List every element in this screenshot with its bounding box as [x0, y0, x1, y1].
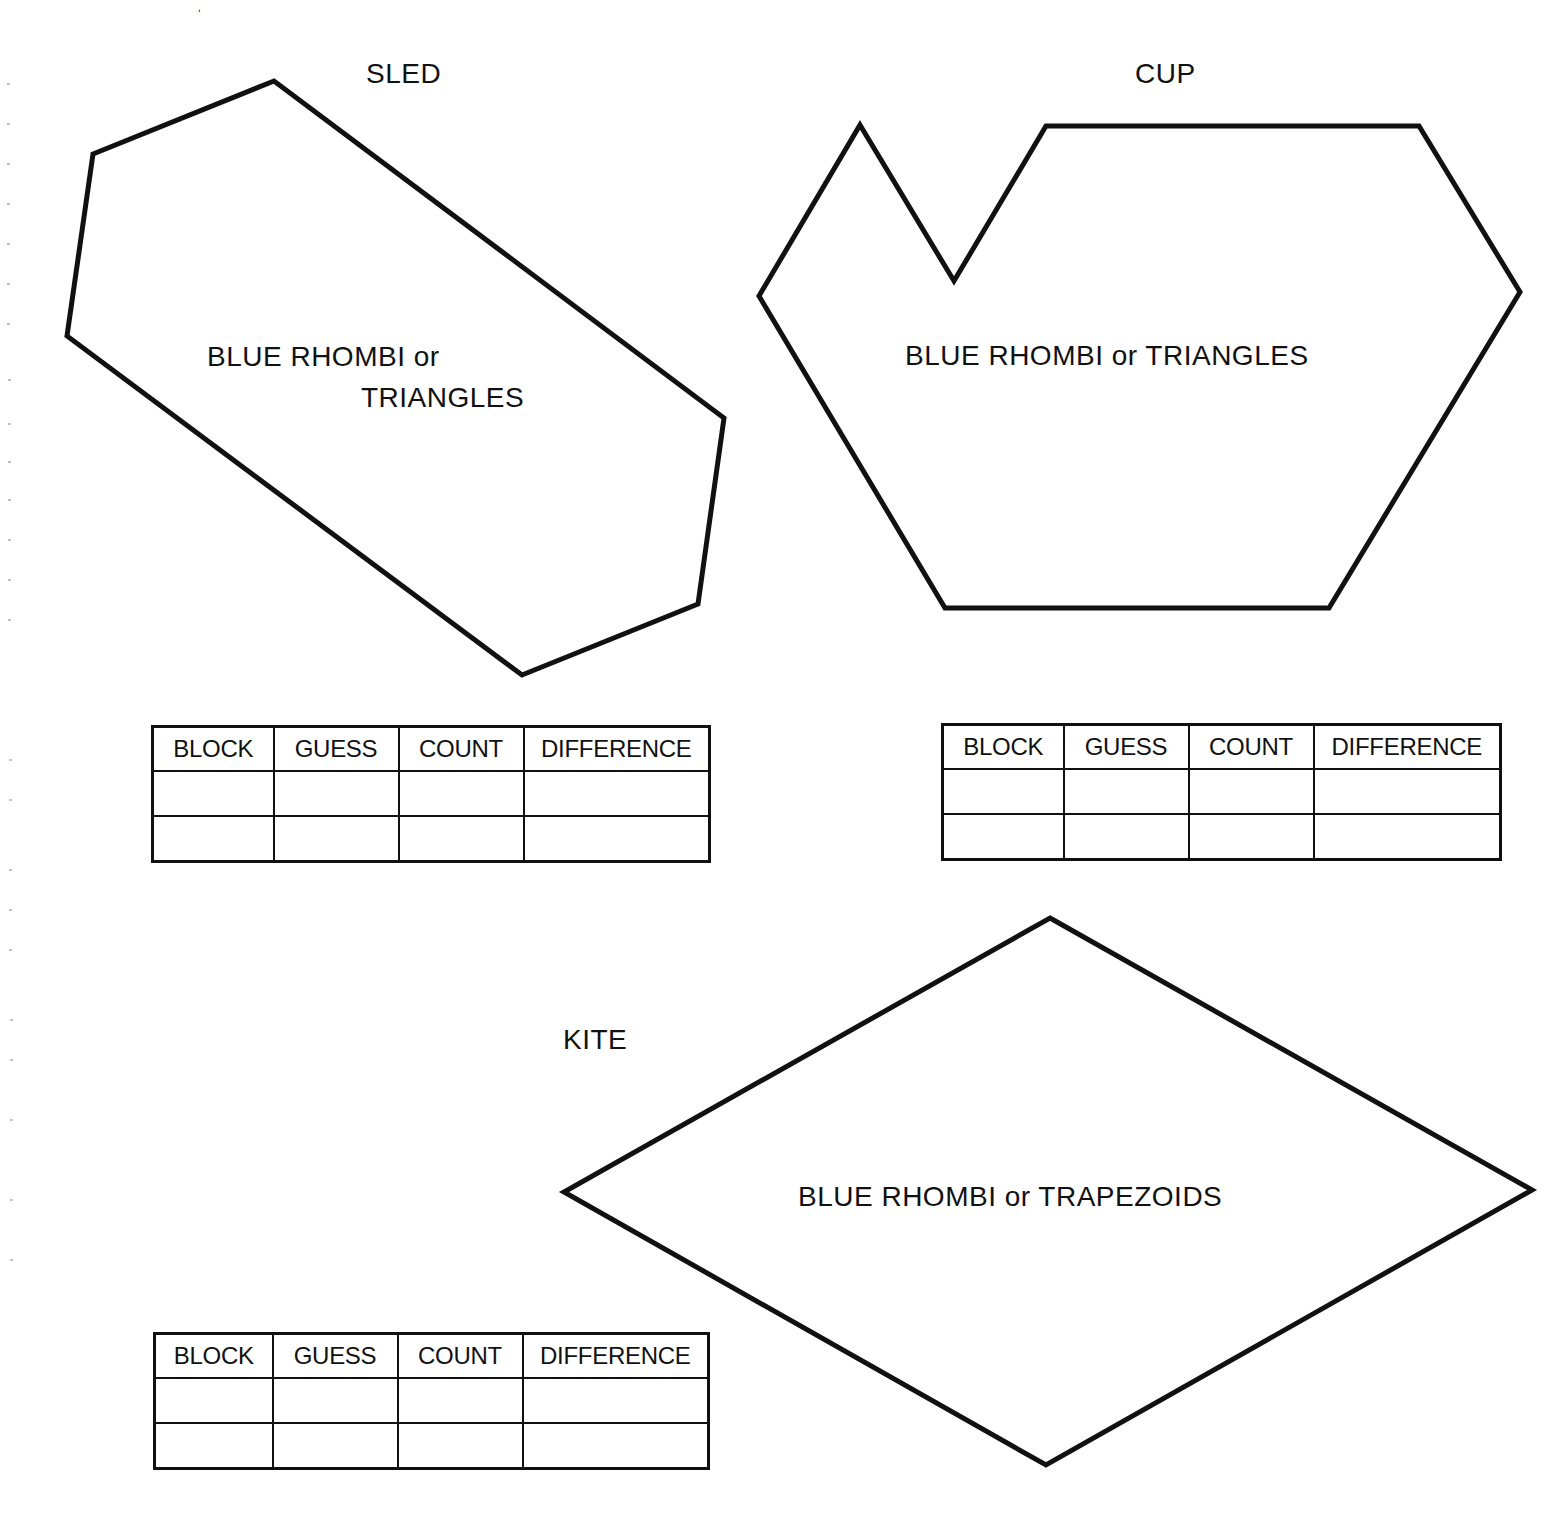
difference-cell[interactable]	[1314, 814, 1501, 860]
sled-title: SLED	[366, 60, 441, 88]
count-cell[interactable]	[398, 1423, 523, 1469]
guess-cell[interactable]	[1064, 769, 1189, 814]
table-header-row: BLOCK GUESS COUNT DIFFERENCE	[943, 725, 1501, 770]
sled-fill-instruction-line2: TRIANGLES	[207, 378, 524, 419]
column-header-difference: DIFFERENCE	[524, 727, 710, 772]
count-cell[interactable]	[398, 1378, 523, 1423]
guess-cell[interactable]	[274, 771, 399, 816]
difference-cell[interactable]	[523, 1378, 709, 1423]
column-header-guess: GUESS	[273, 1334, 398, 1379]
guess-cell[interactable]	[1064, 814, 1189, 860]
column-header-guess: GUESS	[274, 727, 399, 772]
count-cell[interactable]	[1189, 769, 1314, 814]
kite-title: KITE	[563, 1026, 627, 1054]
block-cell[interactable]	[153, 816, 274, 862]
column-header-count: COUNT	[398, 1334, 523, 1379]
column-header-guess: GUESS	[1064, 725, 1189, 770]
column-header-block: BLOCK	[153, 727, 274, 772]
column-header-block: BLOCK	[155, 1334, 273, 1379]
difference-cell[interactable]	[523, 1423, 709, 1469]
table-row	[153, 771, 710, 816]
difference-cell[interactable]	[1314, 769, 1501, 814]
table-row	[155, 1423, 709, 1469]
cup-fill-instruction: BLUE RHOMBI or TRIANGLES	[905, 336, 1309, 377]
count-cell[interactable]	[399, 771, 524, 816]
column-header-block: BLOCK	[943, 725, 1064, 770]
cup-title: CUP	[1135, 60, 1196, 88]
table-header-row: BLOCK GUESS COUNT DIFFERENCE	[153, 727, 710, 772]
kite-fill-instruction: BLUE RHOMBI or TRAPEZOIDS	[798, 1177, 1222, 1218]
difference-cell[interactable]	[524, 771, 710, 816]
block-cell[interactable]	[943, 769, 1064, 814]
column-header-count: COUNT	[399, 727, 524, 772]
sled-fill-instruction-line1: BLUE RHOMBI or	[207, 337, 524, 378]
column-header-difference: DIFFERENCE	[523, 1334, 709, 1379]
guess-cell[interactable]	[274, 816, 399, 862]
guess-cell[interactable]	[273, 1423, 398, 1469]
difference-cell[interactable]	[524, 816, 710, 862]
guess-cell[interactable]	[273, 1378, 398, 1423]
kite-tally-table: BLOCK GUESS COUNT DIFFERENCE	[153, 1332, 710, 1470]
count-cell[interactable]	[1189, 814, 1314, 860]
column-header-count: COUNT	[1189, 725, 1314, 770]
block-cell[interactable]	[155, 1423, 273, 1469]
column-header-difference: DIFFERENCE	[1314, 725, 1501, 770]
table-row	[943, 769, 1501, 814]
table-row	[155, 1378, 709, 1423]
block-cell[interactable]	[943, 814, 1064, 860]
sled-fill-instruction: BLUE RHOMBI or TRIANGLES	[207, 337, 524, 418]
table-header-row: BLOCK GUESS COUNT DIFFERENCE	[155, 1334, 709, 1379]
block-cell[interactable]	[153, 771, 274, 816]
cup-tally-table: BLOCK GUESS COUNT DIFFERENCE	[941, 723, 1502, 861]
block-cell[interactable]	[155, 1378, 273, 1423]
sled-tally-table: BLOCK GUESS COUNT DIFFERENCE	[151, 725, 711, 863]
table-row	[153, 816, 710, 862]
count-cell[interactable]	[399, 816, 524, 862]
table-row	[943, 814, 1501, 860]
